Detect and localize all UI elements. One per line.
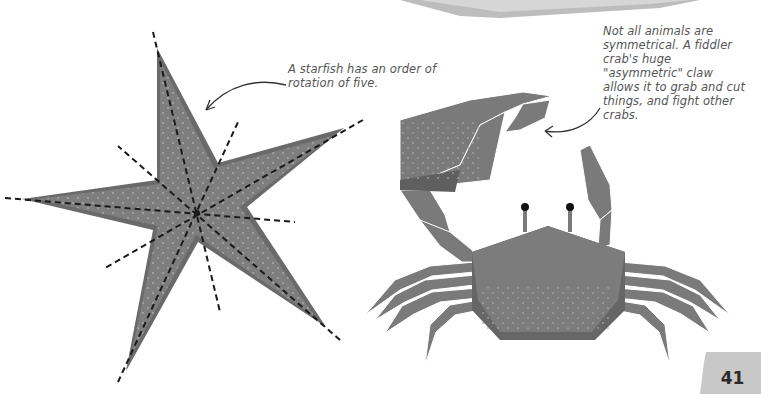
starfish-arrow xyxy=(206,82,286,110)
top-banner-shape xyxy=(400,0,700,18)
page-number: 41 xyxy=(704,360,761,394)
page-number-text: 41 xyxy=(704,368,761,388)
crab-arrow xyxy=(545,108,600,137)
crab-caption: Not all animals are symmetrical. A fiddl… xyxy=(603,24,753,122)
starfish-caption: A starfish has an order of rotation of f… xyxy=(288,62,438,90)
